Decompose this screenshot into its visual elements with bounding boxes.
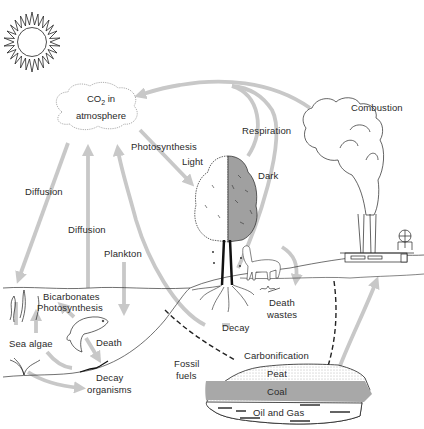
death-wastes-label-1: Death [269,297,295,308]
plankton-label: Plankton [104,248,142,259]
fossil-fuels-label-1: Fossil [174,358,199,369]
fossil-fuels-label-2: fuels [176,370,197,381]
dark-label: Dark [258,170,278,181]
smoke-icon [303,98,384,215]
factory-icon [340,214,414,262]
death-wastes-label-2: wastes [267,309,297,320]
combustion-label: Combustion [351,102,403,113]
light-label: Light [182,156,203,167]
goat-icon [243,246,281,280]
sea-surface [3,287,190,288]
diffusion-center-label: Diffusion [68,224,106,235]
bicarbonates-label: Bicarbonates [43,291,100,302]
decay-organisms-label-2: organisms [87,384,132,395]
tree-icon [192,156,257,312]
death-wastes-icon [260,286,280,292]
decay-organisms-label-1: Decay [96,372,123,383]
co2-atmosphere-label: CO2 in atmosphere [70,92,132,122]
decay-label: Decay [222,322,249,333]
oil-and-gas-label: Oil and Gas [253,407,304,418]
respiration-label: Respiration [242,125,291,136]
sediment-icon [80,361,108,372]
diffusion-left-label: Diffusion [25,186,63,197]
co2-text: CO [87,93,101,104]
sun-icon [4,12,60,72]
co2-in-text: in [105,93,115,104]
carbonification-label: Carbonification [244,350,309,361]
peat-label: Peat [267,368,287,379]
sea-algae-label: Sea algae [9,338,53,349]
photosynthesis-sea-label: Photosynthesis [37,302,103,313]
atmosphere-text: atmosphere [76,110,126,121]
photosynthesis-label: Photosynthesis [131,141,197,152]
coal-label: Coal [267,386,287,397]
carbon-cycle-diagram [0,0,424,429]
death-sea-label: Death [96,337,122,348]
